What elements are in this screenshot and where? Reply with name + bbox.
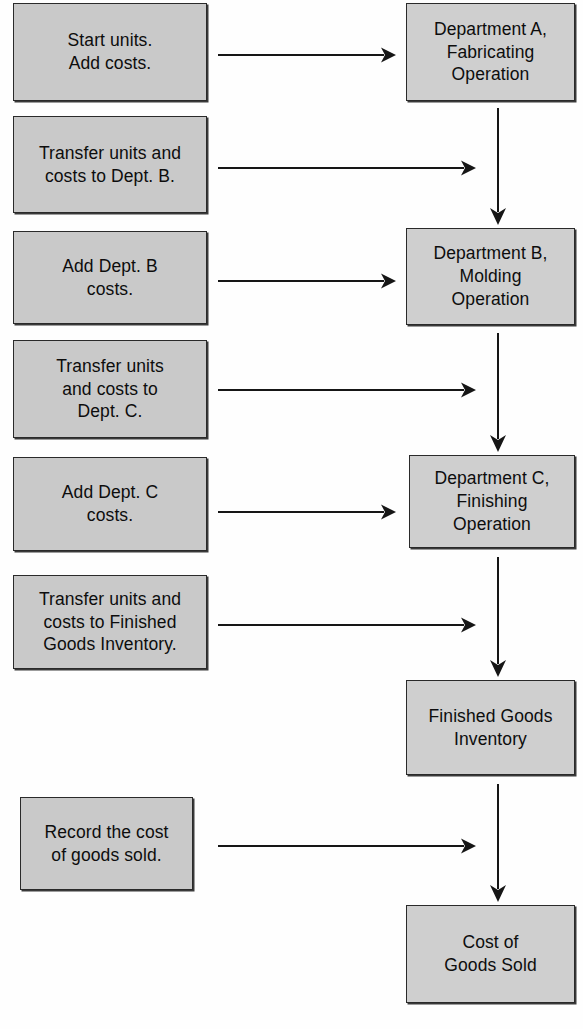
flow-box-add-dept-b-costs: Add Dept. B costs. — [13, 231, 207, 324]
arrow-start-to-dept-a — [204, 41, 410, 69]
arrow-transfer-fg-to-flow — [204, 611, 490, 639]
arrow-record-cogs-to-flow — [204, 832, 490, 860]
flow-a-to-b — [483, 94, 513, 239]
arrow-transfer-c-to-flow — [204, 376, 490, 404]
arrow-add-b-to-dept-b — [204, 267, 410, 295]
flow-box-transfer-to-finished-goods: Transfer units and costs to Finished Goo… — [13, 575, 207, 669]
flow-box-finished-goods-inventory: Finished Goods Inventory — [406, 680, 575, 775]
arrow-transfer-b-to-flow — [204, 154, 490, 182]
flow-fg-to-cogs — [483, 770, 513, 916]
flowchart-canvas: Start units. Add costs.Transfer units an… — [0, 0, 583, 1029]
flow-box-department-a-fabricating: Department A, Fabricating Operation — [406, 3, 575, 101]
flow-b-to-c — [483, 319, 513, 466]
flow-box-add-dept-c-costs: Add Dept. C costs. — [13, 457, 207, 551]
flow-box-transfer-to-dept-c: Transfer units and costs to Dept. C. — [13, 340, 207, 438]
flow-box-cost-of-goods-sold: Cost of Goods Sold — [406, 905, 575, 1003]
flow-box-start-units-add-costs: Start units. Add costs. — [13, 3, 207, 101]
flow-box-record-cost-of-goods-sold: Record the cost of goods sold. — [20, 797, 193, 890]
flow-box-transfer-to-dept-b: Transfer units and costs to Dept. B. — [13, 116, 207, 213]
flow-box-department-b-molding: Department B, Molding Operation — [406, 228, 575, 325]
flow-c-to-fg — [483, 543, 513, 691]
arrow-add-c-to-dept-c — [204, 498, 410, 526]
flow-box-department-c-finishing: Department C, Finishing Operation — [409, 455, 575, 548]
